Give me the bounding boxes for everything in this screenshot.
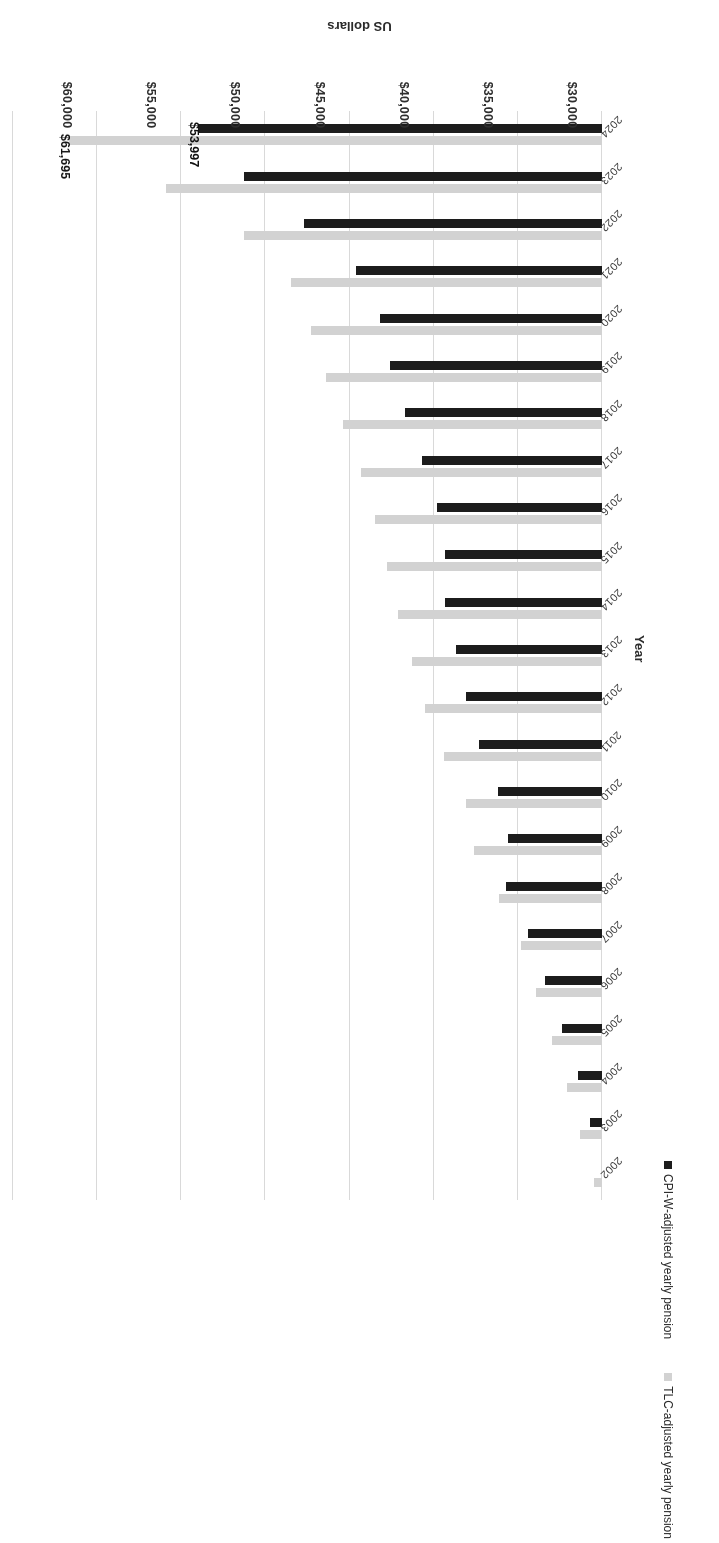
- bar-group: [13, 172, 602, 193]
- bar-cpi-w-adjusted[interactable]: [405, 408, 602, 417]
- data-label: $61,695: [58, 134, 72, 179]
- bar-tlc-adjusted[interactable]: [425, 704, 602, 713]
- category-axis-title: Year: [632, 636, 647, 663]
- bar-tlc-adjusted[interactable]: [343, 420, 602, 429]
- bar-tlc-adjusted[interactable]: [580, 1130, 602, 1139]
- bar-tlc-adjusted[interactable]: [499, 894, 602, 903]
- value-tick-label: $50,000: [228, 82, 242, 129]
- category-tick-label: 2020: [599, 303, 625, 329]
- bar-cpi-w-adjusted[interactable]: [545, 976, 602, 985]
- category-tick-label: 2004: [599, 1061, 625, 1087]
- bar-group: [13, 1166, 602, 1187]
- bar-tlc-adjusted[interactable]: [567, 1083, 602, 1092]
- value-tick-label: $55,000: [144, 82, 158, 129]
- category-tick-label: 2023: [599, 161, 625, 187]
- bar-tlc-adjusted[interactable]: [291, 278, 602, 287]
- bar-cpi-w-adjusted[interactable]: [422, 456, 602, 465]
- bar-tlc-adjusted[interactable]: [166, 184, 602, 193]
- bar-cpi-w-adjusted[interactable]: [508, 834, 602, 843]
- bar-tlc-adjusted[interactable]: [311, 326, 602, 335]
- bar-tlc-adjusted[interactable]: [466, 799, 602, 808]
- legend-label: CPI-W-adjusted yearly pension: [661, 1174, 675, 1339]
- bar-group: [13, 219, 602, 240]
- bar-cpi-w-adjusted[interactable]: [498, 787, 602, 796]
- category-tick-label: 2021: [599, 256, 625, 282]
- category-tick-label: 2017: [599, 445, 625, 471]
- category-tick-label: 2007: [599, 918, 625, 944]
- value-tick-label: $40,000: [396, 82, 410, 129]
- category-tick-label: 2003: [599, 1108, 625, 1134]
- bar-cpi-w-adjusted[interactable]: [446, 550, 603, 559]
- bar-cpi-w-adjusted[interactable]: [304, 219, 602, 228]
- bar-group: [13, 787, 602, 808]
- category-tick-label: 2024: [599, 114, 625, 140]
- category-tick-label: 2014: [599, 587, 625, 613]
- bar-tlc-adjusted[interactable]: [412, 657, 602, 666]
- bar-group: [13, 692, 602, 713]
- legend-item[interactable]: TLC-adjusted yearly pension: [661, 1373, 675, 1539]
- bar-tlc-adjusted[interactable]: [474, 846, 602, 855]
- bar-cpi-w-adjusted[interactable]: [244, 172, 602, 181]
- bar-tlc-adjusted[interactable]: [552, 1036, 602, 1045]
- bar-cpi-w-adjusted[interactable]: [390, 361, 602, 370]
- legend-label: TLC-adjusted yearly pension: [661, 1386, 675, 1539]
- bar-group: [13, 456, 602, 477]
- bar-tlc-adjusted[interactable]: [521, 941, 602, 950]
- bar-cpi-w-adjusted[interactable]: [380, 314, 602, 323]
- bar-tlc-adjusted[interactable]: [398, 610, 602, 619]
- bar-group: [13, 976, 602, 997]
- bar-tlc-adjusted[interactable]: [536, 988, 602, 997]
- bar-cpi-w-adjusted[interactable]: [562, 1024, 602, 1033]
- bar-cpi-w-adjusted[interactable]: [479, 740, 602, 749]
- bar-cpi-w-adjusted[interactable]: [506, 882, 602, 891]
- bar-cpi-w-adjusted[interactable]: [437, 503, 602, 512]
- chart-legend: CPI-W-adjusted yearly pensionTLC-adjuste…: [661, 1161, 675, 1543]
- bar-group: [13, 929, 602, 950]
- bar-group: [13, 550, 602, 571]
- category-tick-label: 2011: [599, 730, 625, 756]
- legend-item[interactable]: CPI-W-adjusted yearly pension: [661, 1161, 675, 1339]
- bar-group: [13, 834, 602, 855]
- value-tick-label: $45,000: [312, 82, 326, 129]
- bar-tlc-adjusted[interactable]: [375, 515, 602, 524]
- bar-tlc-adjusted[interactable]: [594, 1178, 602, 1187]
- category-tick-label: 2009: [599, 824, 625, 850]
- category-tick-label: 2010: [599, 776, 625, 802]
- bar-cpi-w-adjusted[interactable]: [528, 929, 602, 938]
- bar-group: [13, 1024, 602, 1045]
- category-tick-label: 2012: [599, 682, 625, 708]
- bar-cpi-w-adjusted[interactable]: [356, 266, 602, 275]
- category-tick-label: 2015: [599, 540, 625, 566]
- value-tick-label: $30,000: [565, 82, 579, 129]
- bar-group: [13, 361, 602, 382]
- bar-cpi-w-adjusted[interactable]: [456, 645, 602, 654]
- bar-group: [13, 503, 602, 524]
- bar-tlc-adjusted[interactable]: [326, 373, 602, 382]
- bar-tlc-adjusted[interactable]: [387, 562, 602, 571]
- bar-cpi-w-adjusted[interactable]: [466, 692, 602, 701]
- value-axis-title: US dollars: [0, 19, 719, 34]
- plot-area: [13, 111, 602, 1200]
- category-tick-label: 2019: [599, 350, 625, 376]
- bar-group: [13, 124, 602, 145]
- bar-group: [13, 266, 602, 287]
- category-tick-label: 2013: [599, 634, 625, 660]
- bar-group: [13, 1071, 602, 1092]
- bar-group: [13, 314, 602, 335]
- category-tick-label: 2002: [599, 1155, 625, 1181]
- bar-group: [13, 882, 602, 903]
- bar-group: [13, 408, 602, 429]
- bar-tlc-adjusted[interactable]: [444, 752, 602, 761]
- bar-tlc-adjusted[interactable]: [361, 468, 602, 477]
- bar-tlc-adjusted[interactable]: [69, 136, 602, 145]
- bar-tlc-adjusted[interactable]: [244, 231, 602, 240]
- category-tick-label: 2022: [599, 208, 625, 234]
- legend-swatch-icon: [664, 1373, 672, 1381]
- value-tick-label: $60,000: [60, 82, 74, 129]
- bar-cpi-w-adjusted[interactable]: [446, 598, 603, 607]
- data-label: $53,997: [187, 122, 201, 167]
- category-tick-label: 2008: [599, 871, 625, 897]
- value-tick-label: $35,000: [481, 82, 495, 129]
